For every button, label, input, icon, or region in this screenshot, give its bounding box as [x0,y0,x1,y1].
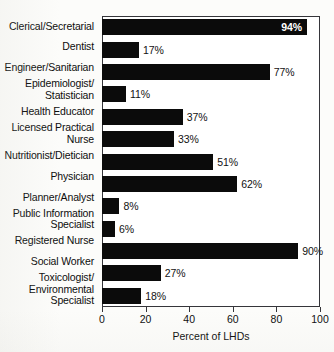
bar-row: 33% [102,128,320,150]
bar: 6% [102,221,115,237]
category-label: Health Educator [0,101,98,122]
category-label: Epidemiologist/ Statistician [0,78,98,101]
x-axis-title: Percent of LHDs [102,330,320,342]
category-label: Social Worker [0,252,98,273]
bar-value-label: 17% [143,44,164,55]
bar: 33% [102,131,174,147]
x-tick-label: 60 [227,313,239,325]
bar-row: 51% [102,150,320,172]
bar-row: 90% [102,240,320,262]
x-tick [276,307,277,312]
bar-chart-figure: Clerical/SecretarialDentistEngineer/Sani… [0,0,334,352]
x-tick [189,307,190,312]
bar-row: 62% [102,173,320,195]
bar-row: 27% [102,262,320,284]
x-tick [102,307,103,312]
bar-value-label: 11% [130,89,150,100]
bar-value-label: 33% [178,134,199,145]
category-axis-labels: Clerical/SecretarialDentistEngineer/Sani… [0,16,98,307]
bar: 37% [102,109,183,125]
bar-row: 17% [102,38,320,60]
bar: 51% [102,154,213,170]
x-axis-tick-labels: 020406080100 [102,313,320,327]
bar-value-label: 51% [217,156,238,167]
bar-row: 8% [102,195,320,217]
category-label: Toxicologist/ Environmental Specialist [0,272,98,307]
bar-value-label: 27% [165,268,186,279]
bars-container: 94%17%77%11%37%33%51%62%8%6%90%27%18% [102,16,320,307]
x-tick [233,307,234,312]
category-label: Nutritionist/Dietician [0,145,98,166]
category-label: Clerical/Secretarial [0,16,98,37]
bar-row: 11% [102,83,320,105]
bar: 90% [102,243,298,259]
bar: 94% [102,19,307,35]
category-label: Physician [0,166,98,187]
bar-value-label: 62% [241,179,262,190]
category-label: Public Information Specialist [0,208,98,231]
bar-row: 77% [102,61,320,83]
bar-row: 6% [102,218,320,240]
bar: 27% [102,265,161,281]
bar-value-label: 8% [123,201,138,212]
category-label: Registered Nurse [0,231,98,252]
x-tick [146,307,147,312]
bar-value-label: 18% [145,291,166,302]
x-tick [320,307,321,312]
category-label: Dentist [0,37,98,58]
category-label: Engineer/Sanitarian [0,58,98,79]
x-tick-label: 20 [140,313,152,325]
bar-value-label: 90% [302,246,323,257]
x-tick-label: 100 [311,313,329,325]
x-tick-label: 40 [183,313,195,325]
bar: 77% [102,64,270,80]
category-label: Licensed Practical Nurse [0,122,98,145]
bar-value-label: 77% [274,67,295,78]
bar-value-label: 37% [187,112,208,123]
bar: 18% [102,288,141,304]
bar: 11% [102,86,126,102]
category-label: Planner/Analyst [0,187,98,208]
bar: 17% [102,42,139,58]
x-tick-label: 80 [271,313,283,325]
bar-row: 18% [102,285,320,307]
bar: 62% [102,176,237,192]
bar-row: 94% [102,16,320,38]
bar-row: 37% [102,106,320,128]
bar-value-label: 6% [119,223,134,234]
bar-value-label: 94% [281,22,302,33]
x-tick-label: 0 [99,313,105,325]
bar: 8% [102,198,119,214]
